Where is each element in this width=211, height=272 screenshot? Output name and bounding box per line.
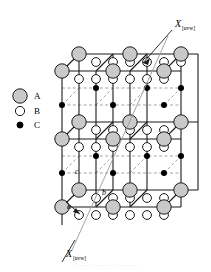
atom-c bbox=[144, 153, 150, 159]
atom-c bbox=[161, 170, 167, 176]
atom-a bbox=[123, 183, 137, 197]
dashed-line bbox=[96, 88, 113, 105]
atom-b bbox=[75, 143, 84, 152]
atom-c bbox=[93, 153, 99, 159]
atom-a bbox=[55, 64, 69, 78]
atom-a bbox=[72, 115, 86, 129]
lattice-vector-label-b: b bbox=[102, 188, 106, 197]
atom-a bbox=[123, 47, 137, 61]
atoms-b-front bbox=[75, 75, 169, 220]
atom-a bbox=[157, 64, 171, 78]
atom-b bbox=[143, 126, 152, 135]
atom-a bbox=[174, 183, 188, 197]
atom-b bbox=[126, 75, 135, 84]
atom-c bbox=[161, 102, 167, 108]
atom-b bbox=[126, 211, 135, 220]
atom-a bbox=[106, 64, 120, 78]
atom-a bbox=[55, 132, 69, 146]
dashed-line bbox=[130, 156, 147, 173]
atom-a bbox=[157, 132, 171, 146]
legend-marker-a bbox=[13, 89, 27, 103]
direction-label-top-symbol: X bbox=[174, 18, 182, 29]
atom-b bbox=[92, 194, 101, 203]
legend-label-c: C bbox=[34, 120, 40, 130]
atom-a bbox=[72, 47, 86, 61]
atom-c bbox=[178, 153, 184, 159]
atom-c bbox=[93, 85, 99, 91]
figure-caption: · ···· ···· · ····· ··· ·· ······ ··· bbox=[0, 259, 211, 272]
lattice-vector-label-a: a bbox=[67, 202, 71, 211]
atom-b bbox=[75, 75, 84, 84]
atom-b bbox=[92, 211, 101, 220]
atom-b bbox=[126, 143, 135, 152]
dashed-line bbox=[62, 88, 79, 105]
legend: A B C bbox=[13, 89, 41, 130]
crystal-structure-figure: A B C bbox=[0, 0, 211, 272]
atom-b bbox=[92, 143, 101, 152]
atom-b bbox=[92, 126, 101, 135]
atom-b bbox=[143, 194, 152, 203]
legend-marker-b bbox=[15, 106, 24, 115]
leader-line-top bbox=[143, 30, 172, 63]
atom-a bbox=[72, 183, 86, 197]
atom-a bbox=[106, 132, 120, 146]
atom-a bbox=[157, 200, 171, 214]
atom-a bbox=[174, 115, 188, 129]
direction-label-top-subscript: [uvw] bbox=[182, 25, 195, 31]
dashed-line bbox=[164, 156, 181, 173]
legend-label-b: B bbox=[34, 106, 40, 116]
legend-marker-c bbox=[17, 122, 23, 128]
atom-b bbox=[92, 75, 101, 84]
atom-c bbox=[59, 102, 65, 108]
atom-c bbox=[110, 170, 116, 176]
atom-b bbox=[143, 211, 152, 220]
atom-c bbox=[59, 170, 65, 176]
atom-c bbox=[110, 102, 116, 108]
lattice-vector-label-c: c bbox=[75, 167, 79, 176]
direction-label-bottom-symbol: X bbox=[65, 248, 73, 259]
atom-a bbox=[123, 115, 137, 129]
atom-b bbox=[92, 58, 101, 67]
dashed-line bbox=[164, 88, 181, 105]
legend-label-a: A bbox=[34, 91, 41, 101]
atom-a bbox=[106, 200, 120, 214]
lattice-body bbox=[55, 47, 198, 225]
atom-b bbox=[143, 143, 152, 152]
atom-a bbox=[174, 47, 188, 61]
atom-c bbox=[178, 85, 184, 91]
